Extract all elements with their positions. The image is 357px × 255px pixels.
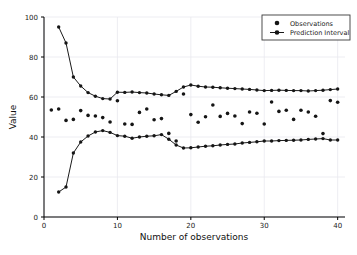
data-point-marker	[174, 143, 177, 146]
data-point-marker	[189, 83, 192, 86]
data-point-marker	[145, 91, 148, 94]
series-prediction-interval-lower	[57, 129, 339, 194]
observation-point-marker	[284, 108, 288, 112]
x-tick-label: 30	[260, 222, 269, 230]
data-point-marker	[292, 139, 295, 142]
observation-point-marker	[248, 110, 252, 114]
observation-point-marker	[101, 116, 105, 120]
data-point-marker	[241, 87, 244, 90]
data-point-marker	[116, 91, 119, 94]
data-point-marker	[329, 138, 332, 141]
data-point-marker	[336, 87, 339, 90]
observation-point-marker	[292, 118, 296, 122]
legend-marker-prediction-interval-icon	[275, 30, 280, 35]
data-point-marker	[160, 133, 163, 136]
y-tick-label: 100	[25, 14, 38, 22]
observation-point-marker	[94, 114, 98, 118]
data-point-marker	[285, 89, 288, 92]
data-point-marker	[255, 88, 258, 91]
data-point-marker	[211, 144, 214, 147]
chart-plot-area: 010203040 020406080100 Number of observa…	[0, 0, 357, 255]
data-point-marker	[57, 190, 60, 193]
data-point-marker	[116, 134, 119, 137]
observation-point-marker	[108, 120, 112, 124]
observation-point-marker	[145, 107, 149, 111]
data-point-marker	[182, 85, 185, 88]
observation-point-marker	[211, 103, 215, 107]
observation-point-marker	[314, 114, 318, 118]
grid-lines	[44, 17, 345, 217]
legend-marker-observations-icon	[275, 21, 280, 26]
observation-point-marker	[189, 113, 193, 117]
y-tick-label: 60	[29, 94, 38, 102]
x-axis-ticks: 010203040	[42, 217, 342, 230]
data-point-marker	[94, 95, 97, 98]
x-tick-label: 0	[42, 222, 46, 230]
observation-point-marker	[64, 119, 68, 123]
data-point-marker	[160, 93, 163, 96]
series-observations	[50, 92, 340, 143]
axis-lines	[44, 17, 345, 217]
data-point-marker	[299, 138, 302, 141]
data-point-marker	[263, 89, 266, 92]
data-point-marker	[314, 89, 317, 92]
observation-point-marker	[50, 108, 54, 112]
data-point-marker	[196, 145, 199, 148]
data-point-marker	[108, 131, 111, 134]
observation-point-marker	[204, 115, 208, 119]
observation-point-marker	[226, 112, 230, 116]
x-tick-label: 20	[186, 222, 195, 230]
observation-point-marker	[262, 122, 266, 126]
data-point-marker	[167, 94, 170, 97]
data-point-marker	[152, 92, 155, 95]
data-point-marker	[101, 129, 104, 132]
data-point-marker	[219, 143, 222, 146]
data-point-marker	[64, 185, 67, 188]
data-point-marker	[130, 90, 133, 93]
data-point-marker	[182, 146, 185, 149]
data-point-marker	[86, 134, 89, 137]
observation-point-marker	[270, 100, 274, 104]
data-point-marker	[79, 140, 82, 143]
legend-label-prediction-interval: Prediction Interval	[290, 29, 349, 37]
observation-point-marker	[130, 123, 134, 127]
data-point-marker	[263, 139, 266, 142]
observation-point-marker	[138, 111, 142, 115]
data-point-marker	[292, 89, 295, 92]
observation-point-marker	[255, 111, 259, 115]
data-point-marker	[123, 91, 126, 94]
data-point-marker	[277, 89, 280, 92]
data-point-marker	[270, 139, 273, 142]
observation-point-marker	[240, 122, 244, 126]
data-point-marker	[307, 138, 310, 141]
data-point-marker	[204, 85, 207, 88]
observation-point-marker	[57, 107, 61, 111]
data-point-marker	[285, 139, 288, 142]
chart-figure: 010203040 020406080100 Number of observa…	[0, 0, 357, 255]
data-point-marker	[145, 135, 148, 138]
data-point-marker	[138, 135, 141, 138]
data-point-marker	[233, 87, 236, 90]
x-tick-label: 10	[113, 222, 122, 230]
data-point-marker	[101, 97, 104, 100]
data-point-marker	[130, 137, 133, 140]
observation-point-marker	[174, 139, 178, 143]
chart-legend: Observations Prediction Interval	[262, 15, 350, 40]
data-point-marker	[314, 137, 317, 140]
data-point-marker	[57, 25, 60, 28]
y-tick-label: 80	[29, 54, 38, 62]
observation-point-marker	[306, 110, 310, 114]
data-point-marker	[226, 87, 229, 90]
data-point-marker	[79, 84, 82, 87]
observation-point-marker	[116, 99, 120, 103]
observation-point-marker	[196, 120, 200, 124]
data-point-marker	[270, 89, 273, 92]
observation-point-marker	[160, 117, 164, 121]
data-point-marker	[152, 134, 155, 137]
data-point-marker	[86, 91, 89, 94]
data-point-marker	[233, 142, 236, 145]
observation-point-marker	[277, 110, 281, 114]
data-point-marker	[108, 97, 111, 100]
observation-point-marker	[182, 92, 186, 96]
data-point-marker	[94, 130, 97, 133]
